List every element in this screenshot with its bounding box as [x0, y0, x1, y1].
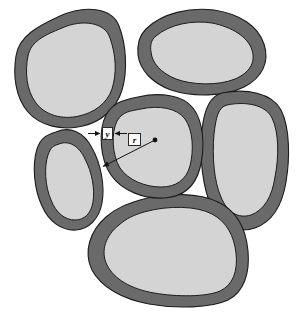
radius-label: r: [128, 133, 141, 146]
centre-dot: [153, 138, 158, 143]
grain-top-right: [138, 9, 266, 95]
grain-diagram: y r: [0, 0, 299, 315]
thickness-label: y: [102, 127, 113, 140]
grain-right-core: [213, 104, 277, 217]
grain-diagram-canvas: [0, 0, 299, 315]
